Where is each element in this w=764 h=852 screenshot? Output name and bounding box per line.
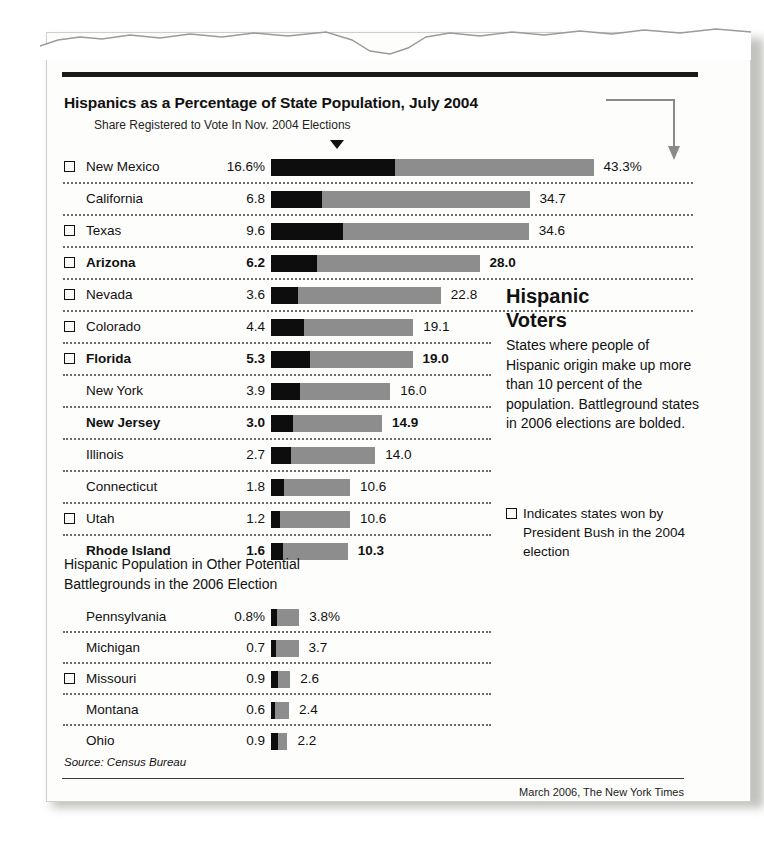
table-row: California6.834.7 xyxy=(62,184,698,216)
checkbox-icon xyxy=(64,513,75,524)
checkbox-icon xyxy=(64,161,75,172)
sidebar-body-text: States where people of Hispanic origin m… xyxy=(506,336,702,434)
population-percentage-value: 19.1 xyxy=(423,319,449,334)
registered-share-bar-segment xyxy=(271,223,343,240)
registered-share-value: 0.6 xyxy=(182,702,265,717)
population-percentage-bar xyxy=(271,447,375,464)
registered-share-value: 3.0 xyxy=(182,415,265,430)
registered-share-bar-segment xyxy=(271,511,280,528)
credit-note: March 2006, The New York Times xyxy=(62,786,684,798)
population-percentage-value: 16.0 xyxy=(400,383,426,398)
registered-share-bar-segment xyxy=(271,733,278,750)
chart-subtitle: Share Registered to Vote In Nov. 2004 El… xyxy=(94,118,351,132)
state-name-label: Connecticut xyxy=(86,479,157,494)
registered-share-bar-segment xyxy=(271,351,310,368)
share-registered-marker-icon xyxy=(330,140,344,149)
sidebar-heading-line2: Voters xyxy=(506,309,567,331)
sidebar-heading: Hispanic Voters xyxy=(506,284,702,332)
state-name-label: Florida xyxy=(86,351,131,366)
registered-share-bar-segment xyxy=(271,383,300,400)
registered-share-bar-segment xyxy=(271,702,275,719)
table-row: Montana0.62.4 xyxy=(62,695,502,726)
population-percentage-bar xyxy=(271,733,287,750)
table-row: Arizona6.228.0 xyxy=(62,248,698,280)
population-percentage-value: 10.6 xyxy=(360,511,386,526)
state-name-label: Pennsylvania xyxy=(86,609,166,624)
population-percentage-bar xyxy=(271,383,390,400)
registered-share-value: 0.7 xyxy=(182,640,265,655)
population-percentage-bar xyxy=(271,287,441,304)
state-name-label: New York xyxy=(86,383,143,398)
registered-share-value: 0.9 xyxy=(182,671,265,686)
registered-share-value: 3.9 xyxy=(182,383,265,398)
state-name-label: New Mexico xyxy=(86,159,160,174)
population-percentage-value: 34.6 xyxy=(539,223,565,238)
population-percentage-value: 14.0 xyxy=(385,447,411,462)
infographic-content: Hispanics as a Percentage of State Popul… xyxy=(62,56,702,796)
legend-bush-states: Indicates states won by President Bush i… xyxy=(506,504,706,561)
population-percentage-bar xyxy=(271,511,350,528)
checkbox-icon xyxy=(64,289,75,300)
registered-share-value: 0.9 xyxy=(182,733,265,748)
sidebar-heading-line1: Hispanic xyxy=(506,285,589,307)
table-row: Missouri0.92.6 xyxy=(62,664,502,695)
population-percentage-bar xyxy=(271,255,480,272)
state-name-label: Arizona xyxy=(86,255,136,270)
population-percentage-value: 43.3% xyxy=(604,159,642,174)
secondary-table-heading: Hispanic Population in Other Potential B… xyxy=(64,554,464,594)
registered-share-bar-segment xyxy=(271,671,278,688)
checkbox-icon xyxy=(64,673,75,684)
population-percentage-value: 3.7 xyxy=(309,640,328,655)
population-percentage-bar xyxy=(271,159,594,176)
table-row: Ohio0.92.2 xyxy=(62,726,502,757)
population-percentage-value: 22.8 xyxy=(451,287,477,302)
checkbox-icon xyxy=(64,353,75,364)
registered-share-value: 9.6 xyxy=(182,223,265,238)
registered-share-bar-segment xyxy=(271,640,276,657)
registered-share-value: 1.2 xyxy=(182,511,265,526)
population-percentage-value: 2.4 xyxy=(299,702,318,717)
checkbox-icon xyxy=(64,257,75,268)
table-row: Texas9.634.6 xyxy=(62,216,698,248)
state-name-label: Utah xyxy=(86,511,115,526)
population-percentage-value: 28.0 xyxy=(490,255,516,270)
state-name-label: Nevada xyxy=(86,287,133,302)
state-name-label: New Jersey xyxy=(86,415,160,430)
registered-share-bar-segment xyxy=(271,159,395,176)
registered-share-value: 0.8% xyxy=(182,609,265,624)
sidebar-callout: Hispanic Voters States where people of H… xyxy=(506,284,702,434)
checkbox-icon xyxy=(64,321,75,332)
state-name-label: California xyxy=(86,191,143,206)
population-percentage-bar xyxy=(271,415,382,432)
source-note: Source: Census Bureau xyxy=(64,756,186,768)
registered-share-bar-segment xyxy=(271,287,298,304)
population-percentage-bar xyxy=(271,223,529,240)
table-row: Illinois2.714.0 xyxy=(62,440,698,472)
registered-share-value: 3.6 xyxy=(182,287,265,302)
registered-share-value: 6.2 xyxy=(182,255,265,270)
checkbox-icon xyxy=(506,508,517,519)
registered-share-bar-segment xyxy=(271,447,291,464)
population-percentage-value: 3.8% xyxy=(309,609,340,624)
population-percentage-bar xyxy=(271,191,530,208)
registered-share-value: 6.8 xyxy=(182,191,265,206)
table-row: Connecticut1.810.6 xyxy=(62,472,698,504)
registered-share-bar-segment xyxy=(271,319,304,336)
population-percentage-value: 10.6 xyxy=(360,479,386,494)
population-percentage-bar xyxy=(271,671,290,688)
secondary-state-table: Pennsylvania0.8%3.8%Michigan0.73.7Missou… xyxy=(62,602,502,757)
state-name-label: Ohio xyxy=(86,733,115,748)
registered-share-bar-segment xyxy=(271,609,277,626)
secondary-table-wrapper: Pennsylvania0.8%3.8%Michigan0.73.7Missou… xyxy=(62,602,502,772)
state-name-label: Texas xyxy=(86,223,121,238)
population-percentage-bar xyxy=(271,351,413,368)
state-name-label: Illinois xyxy=(86,447,124,462)
registered-share-value: 5.3 xyxy=(182,351,265,366)
registered-share-value: 4.4 xyxy=(182,319,265,334)
population-percentage-value: 34.7 xyxy=(540,191,566,206)
registered-share-bar-segment xyxy=(271,255,317,272)
secondary-heading-line1: Hispanic Population in Other Potential xyxy=(64,554,464,574)
registered-share-bar-segment xyxy=(271,479,284,496)
population-percentage-value: 2.2 xyxy=(297,733,316,748)
population-percentage-bar xyxy=(271,609,299,626)
